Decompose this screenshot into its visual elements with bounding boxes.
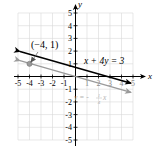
gray-eq-numerator: 1 (98, 93, 101, 98)
y-tick: 2 (68, 47, 72, 56)
y-tick: -3 (65, 111, 72, 120)
x-tick: -3 (38, 79, 45, 88)
x-axis-label: x (147, 71, 152, 81)
x-tick: 5 (131, 79, 135, 88)
x-tick: -4 (26, 79, 33, 88)
y-tick: 3 (68, 34, 72, 43)
gray-eq-variable: x (102, 93, 107, 102)
coordinate-plane-svg: -5 -4 -3 -2 -1 1 2 3 4 5 5 4 3 2 1 -1 -2… (0, 0, 159, 151)
point-label: (−4, 1) (31, 39, 58, 51)
x-tick: -2 (49, 79, 56, 88)
x-tick-labels: -5 -4 -3 -2 -1 1 2 3 4 5 (15, 79, 135, 88)
y-tick: 5 (68, 9, 72, 18)
y-tick: -1 (65, 85, 72, 94)
y-tick: -4 (65, 123, 72, 132)
y-tick: 1 (68, 60, 72, 69)
y-tick: -5 (65, 136, 72, 145)
y-axis-label: y (77, 0, 82, 9)
x-tick: -5 (15, 79, 22, 88)
gray-eq-lhs: y = - (73, 93, 89, 102)
graph-figure: -5 -4 -3 -2 -1 1 2 3 4 5 5 4 3 2 1 -1 -2… (0, 0, 159, 151)
y-tick: 4 (68, 22, 72, 31)
line-equation-label-black: x + 4y = 3 (83, 56, 125, 66)
axes (14, 5, 145, 146)
y-tick: -2 (65, 98, 72, 107)
line-equation-label-gray: y = - 1 4 x (73, 93, 107, 105)
